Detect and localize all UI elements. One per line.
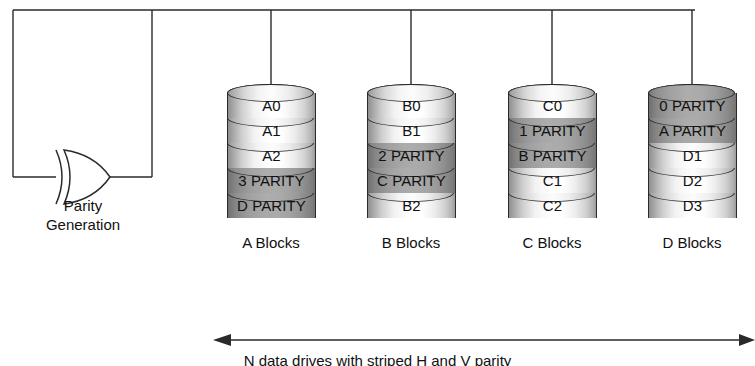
drive-cylinder: C01 PARITYB PARITYC1C2 — [508, 84, 597, 209]
drive-cylinder: A0A1A23 PARITYD PARITY — [227, 84, 316, 209]
drive-block-label: 0 PARITY — [648, 93, 737, 118]
drive-block-label: A1 — [227, 118, 316, 143]
drive-block-label: A0 — [227, 93, 316, 118]
drive-caption: D Blocks — [637, 234, 747, 251]
drive-block-label: B0 — [367, 93, 456, 118]
drive-block-label: B1 — [367, 118, 456, 143]
drive-block-label: C1 — [508, 168, 597, 193]
drive-block-label: B2 — [367, 193, 456, 218]
drive-caption: C Blocks — [497, 234, 607, 251]
drive-block-label: C0 — [508, 93, 597, 118]
drive-block-label: 1 PARITY — [508, 118, 597, 143]
drive-block: C0 — [508, 84, 597, 118]
double-headed-arrow-icon — [213, 334, 755, 346]
parity-generation-label: Parity Generation — [8, 196, 158, 234]
drive-block-label: A2 — [227, 143, 316, 168]
drive-block-label: B PARITY — [508, 143, 597, 168]
drive-cylinder: 0 PARITYA PARITYD1D2D3 — [648, 84, 737, 209]
drive-block: 0 PARITY — [648, 84, 737, 118]
drive-block-label: 3 PARITY — [227, 168, 316, 193]
drive-block-label: D1 — [648, 143, 737, 168]
bottom-caption: N data drives with striped H and V parit… — [0, 352, 755, 366]
drive-block-label: 2 PARITY — [367, 143, 456, 168]
raid-parity-diagram: Parity Generation A0A1A23 PARITYD PARITY… — [0, 0, 755, 366]
drive-block: A0 — [227, 84, 316, 118]
drive-block-label: C PARITY — [367, 168, 456, 193]
drive-block-label: A PARITY — [648, 118, 737, 143]
drive-block-label: D3 — [648, 193, 737, 218]
drive-caption: A Blocks — [216, 234, 326, 251]
drive-block-label: D PARITY — [227, 193, 316, 218]
parity-generation-line2: Generation — [8, 215, 158, 234]
drive-caption: B Blocks — [356, 234, 466, 251]
parity-generation-line1: Parity — [8, 196, 158, 215]
drive-block: B0 — [367, 84, 456, 118]
drive-cylinder: B0B12 PARITYC PARITYB2 — [367, 84, 456, 209]
drive-block-label: D2 — [648, 168, 737, 193]
drive-block-label: C2 — [508, 193, 597, 218]
